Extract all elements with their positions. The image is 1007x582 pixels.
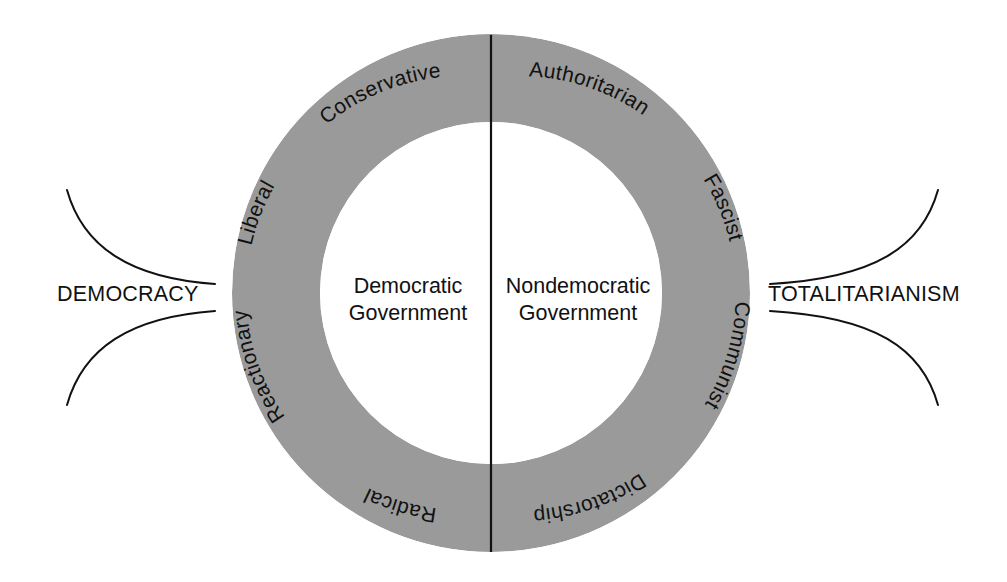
diagram-root: Conservative Reactionary Authoritarian F… [0, 0, 1007, 582]
democracy-label: DEMOCRACY [57, 282, 199, 306]
center-label-democratic-line1: Democratic [354, 274, 463, 298]
center-label-nondemocratic-line2: Government [519, 301, 637, 325]
center-label-democratic-line2: Government [349, 301, 467, 325]
ring-spectrum-figure: Conservative Reactionary Authoritarian F… [0, 0, 1007, 582]
totalitarianism-label: TOTALITARIANISM [768, 282, 960, 306]
center-label-nondemocratic-line1: Nondemocratic [506, 274, 651, 298]
